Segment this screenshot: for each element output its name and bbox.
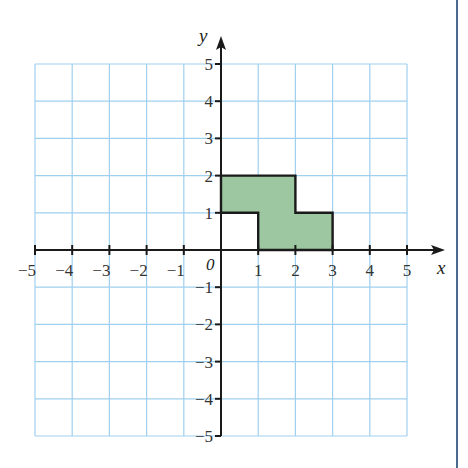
y-tick-label: −1 bbox=[195, 278, 213, 297]
y-tick-label: −2 bbox=[195, 315, 213, 334]
x-tick-label: −5 bbox=[18, 261, 36, 280]
shaded-polygon bbox=[221, 176, 333, 250]
y-tick-label: −4 bbox=[195, 390, 214, 409]
y-tick-label: −3 bbox=[195, 353, 213, 372]
y-tick-label: 5 bbox=[205, 55, 214, 74]
x-tick-label: 3 bbox=[328, 261, 337, 280]
x-tick-label: 2 bbox=[291, 261, 300, 280]
x-tick-label: 1 bbox=[254, 261, 263, 280]
x-tick-label: −1 bbox=[167, 261, 185, 280]
origin-label: 0 bbox=[206, 255, 215, 274]
y-axis-label: y bbox=[197, 25, 208, 46]
y-tick-label: 2 bbox=[205, 167, 214, 186]
x-axis-label: x bbox=[436, 257, 446, 278]
y-tick-label: 4 bbox=[205, 92, 214, 111]
y-tick-label: 3 bbox=[205, 129, 214, 148]
y-tick-label: −5 bbox=[195, 427, 213, 446]
x-tick-label: −4 bbox=[55, 261, 74, 280]
x-tick-label: 4 bbox=[366, 261, 375, 280]
x-tick-label: −2 bbox=[130, 261, 148, 280]
x-tick-label: 5 bbox=[403, 261, 412, 280]
x-tick-label: −3 bbox=[92, 261, 110, 280]
coordinate-grid-figure: −5−4−3−2−11234554321−1−2−3−4−5 x y 0 bbox=[0, 0, 468, 468]
axes bbox=[35, 36, 445, 436]
y-tick-label: 1 bbox=[205, 204, 214, 223]
